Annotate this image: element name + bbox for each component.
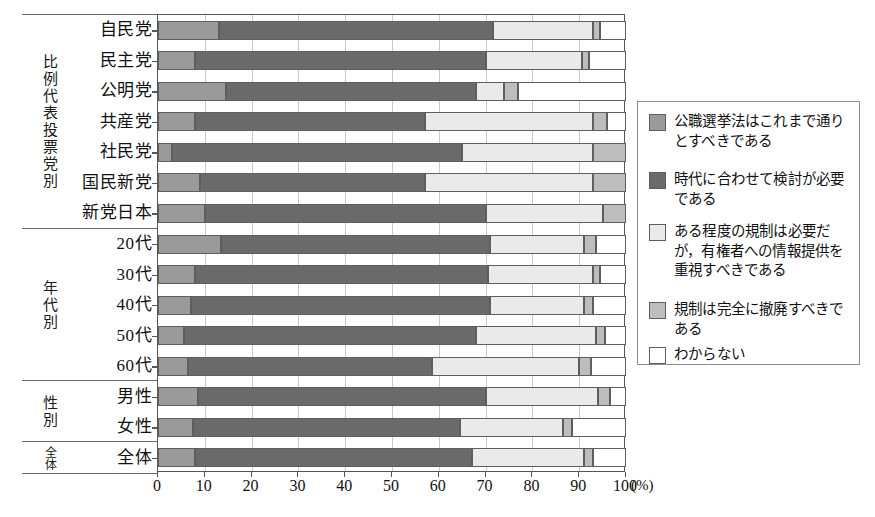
bar-segment [486, 51, 582, 70]
legend-label: 規制は完全に撤廃すべきである [674, 300, 850, 339]
bar-民主党 [158, 51, 626, 70]
bar-segment [158, 51, 195, 70]
bar-segment [596, 326, 605, 345]
bar-segment [490, 235, 584, 254]
bar-segment [193, 418, 460, 437]
category-group-比例代表投票党別: 比例代表投票党別自民党民主党公明党共産党社民党国民新党新党日本 [22, 14, 157, 229]
bar-segment [490, 296, 584, 315]
bar-segment [591, 357, 626, 376]
legend-item: わからない [649, 345, 850, 365]
row-tick [152, 244, 158, 245]
bar-segment [572, 418, 626, 437]
row-tick [152, 366, 158, 367]
legend-label: 公職選挙法はこれまで通りとすべきである [674, 112, 850, 151]
row-label-list: 全体 [63, 442, 155, 473]
bar-segment [584, 296, 593, 315]
bar-segment [219, 21, 493, 40]
x-axis: (%) 0102030405060708090100 [157, 472, 625, 502]
axis-tick-label: 10 [196, 477, 212, 495]
axis-tick-label: 80 [523, 477, 539, 495]
bar-segment [593, 21, 600, 40]
bar-segment [476, 82, 504, 101]
row-tick [152, 152, 158, 153]
bar-segment [593, 173, 626, 192]
bar-segment [593, 448, 626, 467]
bar-60代 [158, 357, 626, 376]
bar-segment [158, 21, 219, 40]
row-tick [152, 397, 158, 398]
row-tick [152, 458, 158, 459]
bar-segment [593, 143, 626, 162]
bar-segment [188, 357, 431, 376]
legend-swatch-icon [649, 347, 666, 364]
row-label-自民党: 自民党 [62, 21, 152, 38]
row-label-50代: 50代 [62, 327, 152, 344]
bar-segment [200, 173, 425, 192]
bar-segment [425, 112, 593, 131]
bar-segment [432, 357, 579, 376]
row-label-国民新党: 国民新党 [62, 174, 152, 191]
legend-swatch-icon [649, 302, 666, 319]
legend: 公職選挙法はこれまで通りとすべきである時代に合わせて検討が必要であるある程度の規… [637, 101, 860, 365]
bar-segment [504, 82, 518, 101]
stacked-bar-chart: 比例代表投票党別自民党民主党公明党共産党社民党国民新党新党日本年代別20代30代… [0, 0, 875, 517]
row-tick [152, 30, 158, 31]
bar-segment [596, 235, 626, 254]
bar-segment [488, 265, 593, 284]
legend-label: 時代に合わせて検討が必要である [674, 170, 850, 209]
bar-segment [593, 112, 607, 131]
bar-segment [184, 326, 477, 345]
bar-segment [158, 143, 172, 162]
bar-共産党 [158, 112, 626, 131]
row-label-女性: 女性 [62, 418, 152, 435]
row-tick [152, 183, 158, 184]
legend-swatch-icon [649, 224, 666, 241]
row-tick [152, 213, 158, 214]
legend-item: ある程度の規制は必要だが，有権者への情報提供を重視すべきである [649, 222, 850, 281]
bar-segment [195, 265, 488, 284]
row-label-社民党: 社民党 [62, 143, 152, 160]
bar-segment [158, 173, 200, 192]
bar-segment [158, 357, 188, 376]
bar-segment [172, 143, 462, 162]
bar-社民党 [158, 143, 626, 162]
bar-segment [158, 326, 184, 345]
legend-label: ある程度の規制は必要だが，有権者への情報提供を重視すべきである [674, 222, 850, 281]
plot-area [157, 14, 625, 472]
bar-30代 [158, 265, 626, 284]
bar-segment [593, 265, 600, 284]
bar-segment [191, 296, 491, 315]
row-label-list: 男性女性 [63, 381, 155, 442]
bar-segment [158, 265, 195, 284]
bar-segment [221, 235, 490, 254]
bar-segment [195, 51, 485, 70]
row-tick [152, 122, 158, 123]
row-tick [152, 91, 158, 92]
row-label-40代: 40代 [62, 296, 152, 313]
bar-segment [486, 204, 603, 223]
bar-segment [486, 387, 598, 406]
row-tick [152, 61, 158, 62]
bar-segment [462, 143, 593, 162]
legend-item: 公職選挙法はこれまで通りとすべきである [649, 112, 850, 151]
bar-男性 [158, 387, 626, 406]
axis-tick-label: 0 [153, 477, 161, 495]
axis-tick-label: 30 [289, 477, 305, 495]
row-label-男性: 男性 [62, 388, 152, 405]
axis-tick-label: 20 [243, 477, 259, 495]
bar-segment [605, 326, 626, 345]
bar-segment [425, 173, 593, 192]
bar-segment [582, 51, 589, 70]
category-group-全体: 全体全体 [22, 441, 157, 474]
legend-swatch-icon [649, 114, 666, 131]
bar-segment [600, 21, 626, 40]
bar-女性 [158, 418, 626, 437]
row-label-民主党: 民主党 [62, 52, 152, 69]
bar-20代 [158, 235, 626, 254]
bar-国民新党 [158, 173, 626, 192]
category-label-column: 比例代表投票党別自民党民主党公明党共産党社民党国民新党新党日本年代別20代30代… [22, 14, 157, 472]
category-group-性別: 性別男性女性 [22, 380, 157, 442]
row-label-新党日本: 新党日本 [62, 204, 152, 221]
row-label-list: 自民党民主党公明党共産党社民党国民新党新党日本 [63, 15, 155, 229]
bar-segment [226, 82, 476, 101]
